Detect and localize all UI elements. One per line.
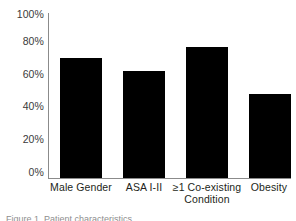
x-axis-label-male-gender: Male Gender <box>46 182 116 194</box>
x-axis-label-line1: Obesity <box>238 182 296 194</box>
x-axis-label-obesity: Obesity <box>238 182 296 194</box>
bar-male-gender <box>60 58 102 178</box>
y-tick-label-80: 80% <box>0 36 44 47</box>
x-axis-label-line1: ASA I-II <box>111 182 177 194</box>
y-tick-label-20: 20% <box>0 134 44 145</box>
figure-bar-chart: 0% 20% 40% 60% 80% 100% Male Gender ASA … <box>0 0 296 221</box>
x-axis-label-line1: Male Gender <box>46 182 116 194</box>
bar-asa-i-ii <box>123 71 165 178</box>
x-axis-label-asa-i-ii: ASA I-II <box>111 182 177 194</box>
x-axis-label-co-existing-condition: ≥1 Co-existing Condition <box>171 182 243 205</box>
y-axis-line <box>48 13 49 179</box>
plot-area: 0% 20% 40% 60% 80% 100% Male Gender ASA … <box>0 0 296 221</box>
y-tick-label-0: 0% <box>0 167 44 178</box>
y-tick-label-40: 40% <box>0 101 44 112</box>
bar-obesity <box>249 94 291 178</box>
x-axis-line <box>48 178 291 179</box>
bar-co-existing-condition <box>186 47 228 178</box>
y-tick-label-100: 100% <box>0 9 44 20</box>
figure-caption: Figure 1. Patient characteristics <box>6 214 292 221</box>
y-tick-label-60: 60% <box>0 69 44 80</box>
x-axis-label-line1: ≥1 Co-existing <box>171 182 243 194</box>
x-axis-label-line2: Condition <box>171 194 243 206</box>
